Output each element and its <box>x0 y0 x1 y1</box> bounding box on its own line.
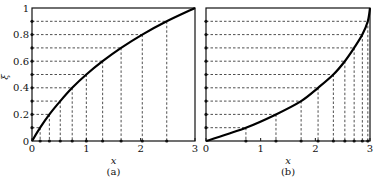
y-tick-label: 0.6 <box>13 56 29 67</box>
y-tick-label: 0 <box>23 136 29 147</box>
y-tick-label: 0.2 <box>13 109 29 120</box>
x-tick-label: 2 <box>137 143 143 154</box>
x-axis-label: x <box>285 155 291 166</box>
panel-label: (b) <box>281 166 295 177</box>
x-tick-label: 0 <box>203 143 209 154</box>
y-tick-label: 1 <box>23 3 29 14</box>
x-axis-label: x <box>111 155 117 166</box>
x-tick-label: 1 <box>257 143 263 154</box>
panel-label: (a) <box>107 166 121 177</box>
x-tick-label: 3 <box>367 143 373 154</box>
chart-figure: 0123x(a)00.20.40.60.81ξ0123x(b) <box>0 0 375 180</box>
x-tick-label: 3 <box>192 143 198 154</box>
y-tick-label: 0.8 <box>13 29 29 40</box>
x-tick-label: 1 <box>83 143 89 154</box>
x-tick-label: 2 <box>312 143 318 154</box>
y-tick-label: 0.4 <box>13 82 29 93</box>
panel-a: 0123x(a)00.20.40.60.81ξ <box>0 3 198 178</box>
x-tick-label: 0 <box>29 143 35 154</box>
y-axis-label: ξ <box>0 74 10 80</box>
panel-b: 0123x(b) <box>203 8 373 177</box>
